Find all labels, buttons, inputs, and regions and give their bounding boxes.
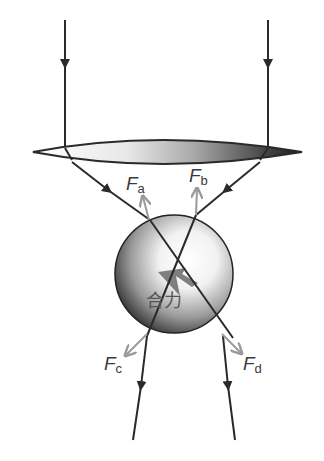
force-arrow-fb xyxy=(196,189,197,215)
exit-ray-right xyxy=(223,336,235,440)
label-resultant-force: 合力 xyxy=(146,292,182,310)
optical-tweezers-diagram xyxy=(0,0,324,461)
label-fd: Fd xyxy=(243,354,262,375)
exit-ray-left xyxy=(133,336,147,440)
label-fa: Fa xyxy=(126,174,145,195)
label-fc: Fc xyxy=(104,354,122,375)
force-arrow-fc xyxy=(126,334,147,355)
lens xyxy=(33,140,302,164)
label-fb: Fb xyxy=(189,166,208,187)
